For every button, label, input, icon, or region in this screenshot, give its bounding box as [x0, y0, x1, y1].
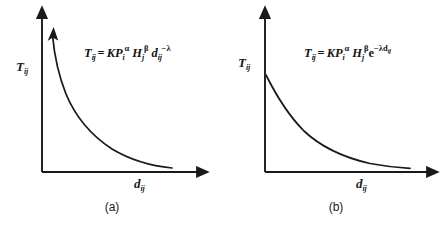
panel-a-plot	[0, 0, 224, 227]
panel-b-y-axis-label: Tij	[238, 55, 250, 71]
panel-a-formula: Tij=KPiαHjβdij−λ	[84, 47, 171, 60]
panel-b-curve	[266, 75, 410, 168]
panel-b: Tij dij Tij=KPiαHjβe−λdij (b)	[224, 0, 448, 227]
panel-a-caption: (a)	[0, 200, 224, 214]
panel-b-plot	[224, 0, 448, 227]
panel-b-x-axis-label: dij	[356, 176, 366, 192]
panel-b-formula: Tij=KPiαHjβe−λdij	[304, 47, 391, 60]
panel-b-caption: (b)	[224, 200, 448, 214]
panel-a: Tij dij Tij=KPiαHjβdij−λ (a)	[0, 0, 224, 227]
panel-a-y-axis-label: Tij	[16, 59, 28, 75]
panel-b-exponent: −λdij	[374, 43, 391, 53]
figure-container: Tij dij Tij=KPiαHjβdij−λ (a) Tij	[0, 0, 448, 227]
panel-a-x-axis-label: dij	[134, 176, 144, 192]
